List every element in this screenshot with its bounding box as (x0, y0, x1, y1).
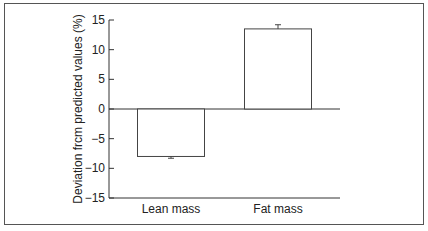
y-tick-label: 15 (92, 13, 106, 27)
y-tick-label: −10 (85, 161, 106, 175)
x-tick-label: Fat mass (253, 202, 302, 216)
y-axis-label: Deviation frcm predicted values (%) (71, 14, 85, 203)
bar-lean-mass (138, 109, 205, 156)
y-tick-label: 0 (98, 102, 105, 116)
y-tick-label: −5 (91, 132, 105, 146)
bar-fat-mass (245, 29, 312, 109)
bar-chart: 151050−5−10−15 Lean massFat mass Deviati… (0, 0, 428, 231)
bars: Lean massFat mass (138, 25, 312, 216)
x-tick-label: Lean mass (142, 202, 201, 216)
y-tick-label: 10 (92, 43, 106, 57)
y-tick-label: 5 (98, 72, 105, 86)
y-tick-label: −15 (85, 191, 106, 205)
